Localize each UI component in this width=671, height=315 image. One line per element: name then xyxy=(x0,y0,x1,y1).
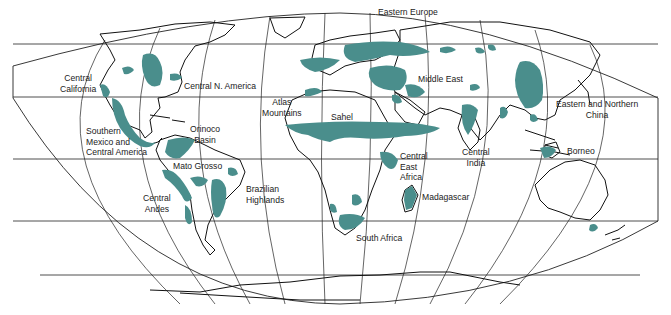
region-central-east-africa xyxy=(380,152,398,169)
highlighted-regions xyxy=(100,41,598,231)
label-line: California xyxy=(60,84,96,95)
label-mato-grosso: Mato Grosso xyxy=(173,161,222,172)
label-line: Central xyxy=(143,193,171,204)
label-borneo: Borneo xyxy=(567,146,595,157)
label-line: East xyxy=(400,162,428,173)
region-eastern-europe xyxy=(344,41,430,62)
region-sahel xyxy=(285,121,440,142)
label-line: Central xyxy=(60,73,96,84)
label-central-andes: Central Andes xyxy=(143,193,171,214)
label-line: India xyxy=(462,158,490,169)
label-central-east-africa: Central East Africa xyxy=(400,151,428,183)
label-line: China xyxy=(556,110,638,121)
label-brazilian-highlands: Brazilian Highlands xyxy=(246,184,284,205)
label-line: Highlands xyxy=(246,195,284,206)
region-australia-se xyxy=(589,224,598,232)
label-line: Africa xyxy=(400,172,428,183)
region-brazilian-highlands xyxy=(211,179,226,218)
label-central-n-america: Central N. America xyxy=(184,81,256,92)
region-atlas xyxy=(305,88,322,96)
label-madagascar: Madagascar xyxy=(422,192,469,203)
label-orinoco-basin: Orinoco Basin xyxy=(190,124,220,145)
label-south-africa: South Africa xyxy=(356,233,402,244)
label-central-california: Central California xyxy=(60,73,96,94)
label-line: Brazilian xyxy=(246,184,284,195)
label-line: Central xyxy=(400,151,428,162)
label-line: Central America xyxy=(86,147,147,158)
world-map xyxy=(0,0,671,315)
map-outline xyxy=(13,13,658,304)
label-line: Southern xyxy=(86,126,147,137)
label-line: Basin xyxy=(190,135,220,146)
label-southern-mexico: Southern Mexico and Central America xyxy=(86,126,147,158)
label-eastern-northern-china: Eastern and Northern China xyxy=(556,99,638,120)
region-south-africa xyxy=(339,214,365,230)
label-central-india: Central India xyxy=(462,147,490,168)
label-atlas-mountains: Atlas Mountains xyxy=(262,97,302,118)
label-sahel: Sahel xyxy=(331,112,353,123)
label-line: Mountains xyxy=(262,108,302,119)
label-line: Mexico and xyxy=(86,137,147,148)
region-middle-east xyxy=(369,65,407,90)
label-eastern-europe: Eastern Europe xyxy=(378,7,438,18)
region-central-california xyxy=(100,84,110,97)
label-line: Andes xyxy=(143,204,171,215)
label-line: Orinoco xyxy=(190,124,220,135)
region-central-n-america xyxy=(142,54,163,87)
region-eastern-northern-china xyxy=(515,61,543,108)
label-line: Atlas xyxy=(262,97,302,108)
meridians xyxy=(80,13,605,304)
label-line: Central xyxy=(462,147,490,158)
parallels xyxy=(13,44,658,275)
label-line: Eastern and Northern xyxy=(556,99,638,110)
label-middle-east: Middle East xyxy=(418,74,463,85)
